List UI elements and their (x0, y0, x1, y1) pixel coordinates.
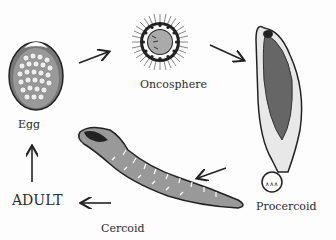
procercoid-illustration: ∧∧∧ (256, 27, 302, 193)
egg-label: Egg (18, 118, 40, 131)
oncosphere-label: Oncosphere (140, 78, 207, 91)
adult-label: ADULT (12, 192, 63, 208)
arrow-egg-to-oncosphere (79, 52, 108, 63)
arrow-oncosphere-to-procercoid (210, 45, 243, 60)
oncosphere-illustration (132, 14, 188, 70)
cercoid-label: Cercoid (101, 222, 145, 235)
svg-text:∧∧∧: ∧∧∧ (265, 180, 278, 187)
arrow-procercoid-to-cercoid (198, 168, 226, 178)
cercoid-illustration (79, 127, 243, 208)
procercoid-label: Procercoid (256, 200, 317, 213)
egg-illustration (9, 42, 63, 110)
life-cycle-diagram: ∧∧∧ Egg Oncosphere Procercoid Cercoid AD… (0, 0, 336, 240)
